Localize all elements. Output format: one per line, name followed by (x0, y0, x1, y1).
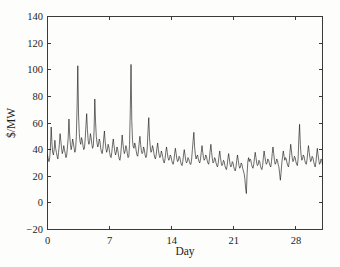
data-series-group (48, 64, 323, 193)
plot-frame (48, 17, 323, 230)
chart-plot-area: −20020406080100120140 07142128 $/MW Day (0, 0, 340, 267)
x-tick-labels: 07142128 (45, 235, 301, 246)
data-series-line (48, 64, 323, 193)
y-tick-label: 0 (38, 197, 43, 208)
y-tick-labels: −20020406080100120140 (27, 11, 43, 235)
y-tick-label: 80 (33, 91, 44, 102)
x-tick-label: 7 (107, 235, 112, 246)
y-axis-title: $/MW (5, 108, 17, 138)
x-axis-title: Day (175, 245, 194, 258)
chart-figure: −20020406080100120140 07142128 $/MW Day (0, 0, 340, 267)
x-tick-label: 0 (45, 235, 50, 246)
x-tick-label: 28 (291, 235, 302, 246)
x-tick-label: 14 (166, 235, 177, 246)
x-tick-label: 21 (229, 235, 240, 246)
y-tick-label: 100 (27, 64, 43, 75)
y-tick-label: 60 (33, 118, 44, 129)
y-tick-label: 140 (27, 11, 43, 22)
y-tick-label: 20 (33, 171, 44, 182)
y-tick-label: −20 (27, 224, 43, 235)
y-tick-label: 120 (27, 38, 43, 49)
y-tick-label: 40 (33, 144, 44, 155)
axis-tick-marks (48, 17, 323, 230)
